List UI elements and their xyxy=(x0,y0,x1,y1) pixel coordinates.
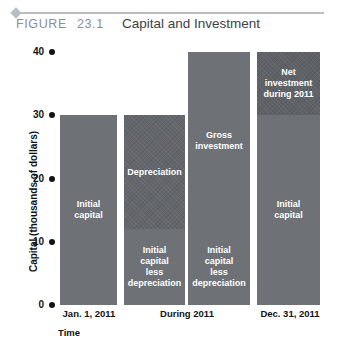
y-axis-tick: 10 xyxy=(0,236,58,248)
y-axis-tick-label: 40 xyxy=(33,46,44,58)
x-axis-category-label: Jan. 1, 2011 xyxy=(52,308,126,319)
bar-segment-label: Initial capital xyxy=(272,199,305,221)
bar-segment-depreciation: Depreciation xyxy=(124,115,185,229)
bar-segment-label: Initial capital xyxy=(72,199,105,221)
bar-segment-label: Depreciation xyxy=(125,167,184,178)
figure-label: FIGURE xyxy=(16,17,67,31)
y-axis-tick: 0 xyxy=(0,299,58,311)
depreciation-bar: DepreciationInitial capital less depreci… xyxy=(124,115,185,305)
header-divider xyxy=(14,12,324,14)
y-axis-tick-marker xyxy=(49,239,55,245)
y-axis-tick-marker xyxy=(49,112,55,118)
figure-number: 23.1 xyxy=(77,17,104,31)
bar-segment-label: Gross investment xyxy=(193,130,245,152)
x-axis-title: Time xyxy=(58,327,80,338)
bar-segment-net-investment-during-2011: Net investment during 2011 xyxy=(257,52,320,115)
bar-segment-gross-investment: Gross investment xyxy=(188,52,250,229)
net-investment-bar: Net investment during 2011Initial capita… xyxy=(257,52,320,305)
y-axis-tick: 40 xyxy=(0,46,58,58)
y-axis-tick-label: 0 xyxy=(38,299,44,311)
bar-segment-initial-capital: Initial capital xyxy=(257,115,320,305)
bar-segment-initial-capital-less-depreciation: Initial capital less depreciation xyxy=(188,229,250,305)
chart-plot-area: Capital (thousands of dollars) 010203040… xyxy=(0,36,338,355)
bar-segment-label: Initial capital less depreciation xyxy=(190,245,248,289)
bar-segment-initial-capital: Initial capital xyxy=(60,115,117,305)
bar-segment-label: Net investment during 2011 xyxy=(261,67,315,100)
bar-segment-label: Initial capital less depreciation xyxy=(126,245,184,289)
bar-segment-initial-capital-less-depreciation: Initial capital less depreciation xyxy=(124,229,185,305)
y-axis-tick-marker xyxy=(49,49,55,55)
figure-header: FIGURE 23.1 Capital and Investment xyxy=(0,0,338,36)
x-axis-category-label: During 2011 xyxy=(124,308,250,319)
y-axis-tick: 30 xyxy=(0,109,58,121)
y-axis-tick-marker xyxy=(49,176,55,182)
y-axis-title: Capital (thousands of dollars) xyxy=(28,107,39,297)
x-axis-category-label: Dec. 31, 2011 xyxy=(252,308,328,319)
figure-title: Capital and Investment xyxy=(122,16,260,31)
y-axis-tick-label: 30 xyxy=(33,109,44,121)
y-axis-tick: 20 xyxy=(0,173,58,185)
gross-investment-bar: Gross investmentInitial capital less dep… xyxy=(188,52,250,305)
initial-capital-bar: Initial capital xyxy=(60,115,117,305)
y-axis-tick-label: 10 xyxy=(33,236,44,248)
y-axis-tick-label: 20 xyxy=(33,173,44,185)
